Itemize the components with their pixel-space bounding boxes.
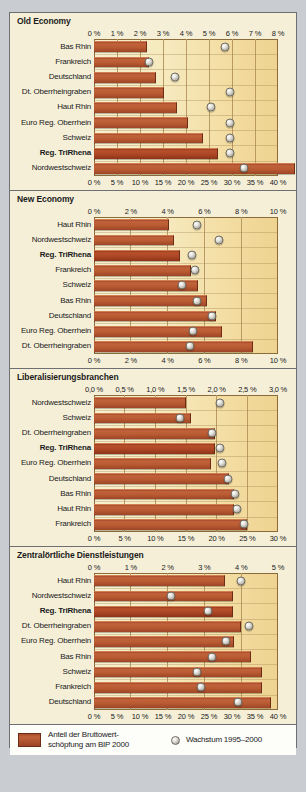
- row-separator: [94, 410, 278, 411]
- top-axis: 0 %1 %2 %3 %4 %5 %: [94, 562, 278, 573]
- bar: [94, 133, 203, 144]
- plot: 0,0 %0,5 %1,0 %1,5 %2,0 %2,5 %3,0 %Nordw…: [10, 384, 288, 544]
- row-separator: [94, 649, 278, 650]
- row-separator: [94, 85, 278, 86]
- category-label: Deutschland: [49, 312, 91, 320]
- category-label: Reg. TriRhena: [40, 149, 91, 157]
- row-separator: [94, 54, 278, 55]
- bar: [94, 397, 186, 408]
- growth-marker: [185, 342, 194, 351]
- chart-title: Old Economy: [10, 13, 296, 28]
- bar: [94, 265, 191, 276]
- bottom-axis: 0 %2 %4 %6 %8 %10 %: [94, 355, 278, 366]
- category-label: Bas Rhin: [60, 297, 91, 305]
- plot: 0 %1 %2 %3 %4 %5 %6 %7 %8 %Bas RhinFrank…: [10, 28, 288, 188]
- growth-marker: [175, 413, 184, 422]
- growth-marker: [193, 667, 202, 676]
- growth-marker: [207, 429, 216, 438]
- legend-bar-label-line1: Anteil der Bruttowert-: [48, 730, 129, 740]
- bottom-axis-tick: 30 %: [224, 711, 240, 722]
- category-label: Haut Rhin: [57, 103, 91, 111]
- growth-marker: [217, 459, 226, 468]
- bar: [94, 473, 229, 484]
- bottom-axis-tick: 20 %: [178, 711, 194, 722]
- top-axis-tick: 3,0 %: [269, 384, 287, 395]
- plot-area: Haut RhinNordwestschweizReg. TriRhenaDt.…: [94, 573, 278, 710]
- bottom-axis-tick: 20 %: [209, 533, 225, 544]
- row-separator: [94, 339, 278, 340]
- row-separator: [94, 456, 278, 457]
- bar: [94, 41, 147, 52]
- category-label: Euro Reg. Oberrhein: [21, 327, 91, 335]
- top-axis-tick: 1 %: [125, 562, 137, 573]
- category-label: Reg. TriRhena: [40, 251, 91, 259]
- category-label: Nordwestschweiz: [32, 236, 91, 244]
- bottom-axis-tick: 35 %: [247, 177, 263, 188]
- top-axis-tick: 10 %: [270, 206, 286, 217]
- panels-container: Old Economy0 %1 %2 %3 %4 %5 %6 %7 %8 %Ba…: [10, 13, 296, 724]
- top-axis-tick: 4 %: [161, 206, 173, 217]
- top-axis-tick: 6 %: [198, 206, 210, 217]
- bar: [94, 311, 216, 322]
- plot-area: Haut RhinNordwestschweizReg. TriRhenaFra…: [94, 217, 278, 354]
- row-separator: [94, 471, 278, 472]
- row-separator: [94, 588, 278, 589]
- row-separator: [94, 679, 278, 680]
- bar: [94, 591, 233, 602]
- bottom-axis-tick: 25 %: [201, 711, 217, 722]
- row-separator: [94, 100, 278, 101]
- category-label: Bas Rhin: [60, 490, 91, 498]
- growth-marker: [215, 235, 224, 244]
- bottom-axis-tick: 0 %: [88, 533, 100, 544]
- category-label: Euro Reg. Oberrhein: [21, 459, 91, 467]
- growth-marker: [231, 489, 240, 498]
- gridline: [247, 395, 248, 532]
- top-axis: 0 %1 %2 %3 %4 %5 %6 %7 %8 %: [94, 28, 278, 39]
- bar: [94, 667, 262, 678]
- bottom-axis-tick: 4 %: [161, 355, 173, 366]
- top-axis-tick: 7 %: [249, 28, 261, 39]
- bar: [94, 682, 262, 693]
- row-separator: [94, 619, 278, 620]
- top-axis-tick: 0 %: [88, 562, 100, 573]
- row-separator: [94, 517, 278, 518]
- bar: [94, 219, 169, 230]
- bottom-axis-tick: 10 %: [270, 355, 286, 366]
- growth-marker: [170, 73, 179, 82]
- bottom-axis-tick: 15 %: [155, 711, 171, 722]
- bar: [94, 148, 218, 159]
- row-separator: [94, 115, 278, 116]
- top-axis-tick: 0,0 %: [85, 384, 103, 395]
- growth-marker: [204, 607, 213, 616]
- bottom-axis: 0 %5 %10 %15 %20 %25 %30 %: [94, 533, 278, 544]
- bar: [94, 428, 215, 439]
- bar: [94, 636, 234, 647]
- top-axis-tick: 2,5 %: [238, 384, 256, 395]
- top-axis-tick: 0 %: [88, 206, 100, 217]
- chart-title: Liberalisierungsbranchen: [10, 369, 296, 384]
- bottom-axis-tick: 30 %: [224, 177, 240, 188]
- category-label: Haut Rhin: [57, 505, 91, 513]
- chart-panel-4: Zentralörtliche Dienstleistungen0 %1 %2 …: [10, 547, 296, 722]
- category-label: Deutschland: [49, 698, 91, 706]
- bar: [94, 489, 234, 500]
- top-axis-tick: 2,0 %: [208, 384, 226, 395]
- top-axis-tick: 0 %: [88, 28, 100, 39]
- bar: [94, 235, 174, 246]
- legend-bar-label: Anteil der Bruttowert- schöpfung am BIP …: [48, 730, 129, 750]
- chart-panel-2: New Economy0 %2 %4 %6 %8 %10 %Haut RhinN…: [10, 191, 296, 369]
- bottom-axis-tick: 5 %: [118, 533, 130, 544]
- bottom-axis: 0 %5 %10 %15 %20 %25 %30 %35 %40 %: [94, 711, 278, 722]
- row-separator: [94, 247, 278, 248]
- row-separator: [94, 695, 278, 696]
- bar: [94, 621, 241, 632]
- row-separator: [94, 145, 278, 146]
- bottom-axis-tick: 30 %: [270, 533, 286, 544]
- growth-marker: [244, 622, 253, 631]
- category-label: Schweiz: [63, 134, 91, 142]
- category-label: Nordwestschweiz: [32, 164, 91, 172]
- category-label: Euro Reg. Oberrhein: [21, 637, 91, 645]
- growth-marker: [215, 444, 224, 453]
- growth-marker: [207, 311, 216, 320]
- bar: [94, 341, 253, 352]
